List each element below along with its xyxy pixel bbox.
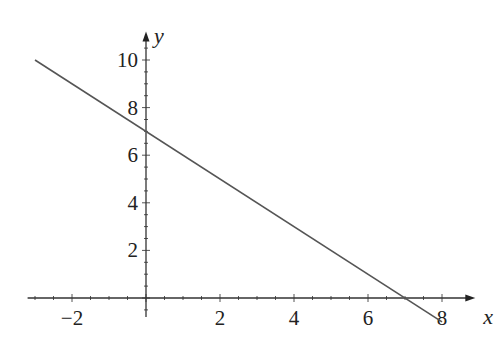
y-tick-labels: 246810 (117, 48, 139, 262)
x-tick-label: 4 (289, 306, 300, 330)
x-tick-label: 2 (215, 306, 226, 330)
x-tick-labels: −22468 (61, 306, 447, 330)
series-group (35, 60, 442, 322)
x-tick-label: −2 (61, 306, 83, 330)
x-tick-label: 8 (437, 306, 448, 330)
y-tick-label: 8 (128, 96, 139, 120)
y-tick-label: 10 (117, 48, 138, 72)
series-line (35, 60, 442, 322)
y-tick-label: 2 (128, 238, 139, 262)
x-axis-arrow-icon (465, 295, 475, 302)
minor-ticks (35, 48, 442, 310)
y-tick-label: 6 (128, 143, 139, 167)
x-axis-label: x (482, 304, 493, 329)
y-axis-arrow-icon (143, 31, 150, 41)
y-axis-label: y (152, 23, 164, 48)
chart: −22468 246810 x y (0, 0, 503, 350)
y-tick-label: 4 (128, 191, 139, 215)
x-tick-label: 6 (363, 306, 374, 330)
